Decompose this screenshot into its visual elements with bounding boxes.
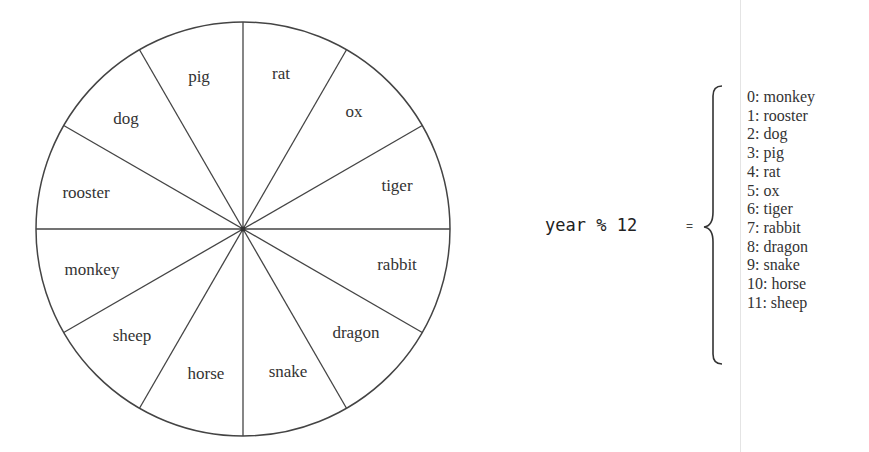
wheel-center-dot (241, 227, 246, 232)
wheel-segment-label-horse: horse (188, 364, 225, 383)
equals-sign: = (686, 219, 693, 233)
wheel-segment-label-ox: ox (346, 102, 364, 121)
wheel-segment-label-sheep: sheep (113, 326, 152, 345)
zodiac-wheel-diagram: ratoxtigerrabbitdragonsnakehorsesheepmon… (0, 0, 869, 452)
zodiac-wheel: ratoxtigerrabbitdragonsnakehorsesheepmon… (36, 22, 450, 436)
mapping-item: 1: rooster (747, 107, 815, 126)
mapping-item: 0: monkey (747, 88, 815, 107)
wheel-segment-label-rooster: rooster (62, 183, 110, 202)
mapping-item: 2: dog (747, 125, 815, 144)
mapping-item: 7: rabbit (747, 219, 815, 238)
mapping-item: 10: horse (747, 275, 815, 294)
mapping-item: 3: pig (747, 144, 815, 163)
mapping-item: 9: snake (747, 256, 815, 275)
mapping-item: 6: tiger (747, 200, 815, 219)
wheel-segment-label-rabbit: rabbit (377, 255, 417, 274)
curly-brace (704, 86, 722, 364)
formula-expression: year % 12 (545, 215, 637, 235)
wheel-segment-label-dragon: dragon (332, 323, 380, 342)
mapping-item: 5: ox (747, 182, 815, 201)
wheel-segment-label-monkey: monkey (65, 260, 120, 279)
mapping-item: 8: dragon (747, 238, 815, 257)
wheel-segment-label-dog: dog (113, 109, 139, 128)
wheel-segment-label-tiger: tiger (381, 176, 412, 195)
wheel-segment-label-snake: snake (269, 362, 308, 381)
mapping-item: 11: sheep (747, 294, 815, 313)
remainder-mapping-list: 0: monkey 1: rooster 2: dog 3: pig 4: ra… (747, 88, 815, 312)
wheel-segment-label-rat: rat (272, 64, 290, 83)
mapping-item: 4: rat (747, 163, 815, 182)
wheel-segment-label-pig: pig (188, 67, 210, 86)
